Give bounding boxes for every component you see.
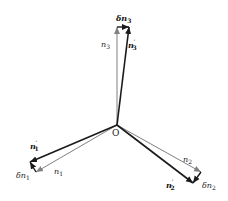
label-n1-prime: n′1 [30,139,39,152]
label-n2-prime: n′2 [166,178,175,191]
label-delta-n2: δn2 [202,181,216,191]
vector-delta-n1 [30,162,36,172]
label-n3-prime: n′3 [128,38,137,51]
vector-n2-prime [117,125,193,183]
label-n3: n3 [101,40,110,50]
vector-delta-n2 [193,172,201,183]
vector-diagram: O n3 n′3 δn3 n′1 n1 δn1 n2 n′2 δn2 [0,0,228,201]
label-n1: n1 [54,167,63,177]
origin-label: O [112,128,119,138]
vector-n1-prime [30,125,117,162]
label-delta-n1: δn1 [16,171,30,181]
vector-n1 [36,125,117,172]
label-n2: n2 [183,155,192,165]
label-delta-n3: δn3 [115,13,131,24]
